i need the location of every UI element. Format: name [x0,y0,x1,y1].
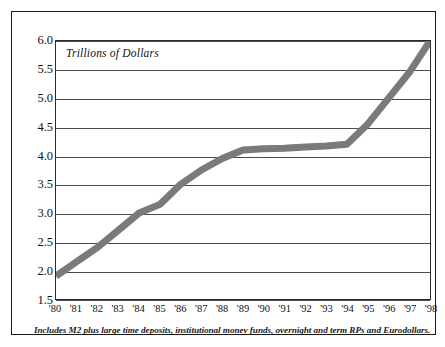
plot-area: Trillions of Dollars [55,40,431,300]
x-axis-tick-label: '91 [279,303,291,314]
x-axis-tick-label: '84 [132,303,144,314]
x-axis-tick-label: '86 [174,303,186,314]
y-axis-tick-label: 2.5 [37,235,53,250]
chart-figure: Trillions of Dollars 6.05.55.04.54.03.53… [0,0,445,347]
x-axis-tick-label: '90 [258,303,270,314]
y-axis-tick-label: 6.0 [37,33,53,48]
y-axis-tick-label: 3.0 [37,206,53,221]
x-axis-tick-label: '97 [404,303,416,314]
data-series-line [56,41,430,299]
chart-title: Trillions of Dollars [66,47,159,59]
x-axis-tick-label: '98 [425,303,437,314]
x-axis-tick-label: '81 [70,303,82,314]
x-axis-tick-labels: '80'81'82'83'84'85'86'87'88'89'90'91'92'… [55,303,431,319]
x-axis-tick-label: '89 [237,303,249,314]
gridline [56,300,430,301]
x-axis-tick-label: '95 [362,303,374,314]
x-axis-tick-label: '93 [320,303,332,314]
y-axis-tick-label: 5.0 [37,90,53,105]
x-axis-tick-label: '94 [341,303,353,314]
x-axis-tick-label: '88 [216,303,228,314]
x-axis-tick-label: '96 [383,303,395,314]
figure-border: Trillions of Dollars 6.05.55.04.54.03.53… [11,11,436,335]
y-axis-tick-labels: 6.05.55.04.54.03.53.02.52.01.5 [23,40,53,300]
chart-footnote: Includes M2 plus large time deposits, in… [34,325,434,335]
x-axis-tick-label: '83 [111,303,123,314]
y-axis-tick-label: 4.5 [37,119,53,134]
y-axis-tick-label: 5.5 [37,61,53,76]
x-axis-tick-label: '85 [153,303,165,314]
x-axis-tick-label: '92 [299,303,311,314]
y-axis-tick-label: 3.5 [37,177,53,192]
x-axis-tick-label: '80 [49,303,61,314]
y-axis-tick-label: 2.0 [37,264,53,279]
x-axis-tick-label: '82 [91,303,103,314]
y-axis-tick-label: 4.0 [37,148,53,163]
x-axis-tick-label: '87 [195,303,207,314]
